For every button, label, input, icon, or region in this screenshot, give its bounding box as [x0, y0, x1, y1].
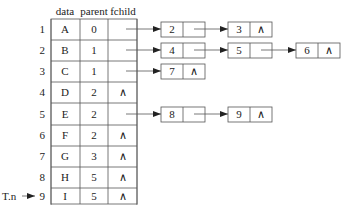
svg-text:H: H — [61, 171, 69, 183]
null-pointer: ∧ — [119, 171, 127, 183]
table-row: 8 H 5 ∧ — [40, 171, 128, 183]
svg-text:5: 5 — [236, 44, 242, 56]
svg-text:8: 8 — [169, 108, 175, 120]
svg-text:1: 1 — [91, 65, 97, 77]
child-list-row-5: 8 9 ∧ — [126, 107, 272, 122]
null-pointer: ∧ — [119, 129, 127, 141]
header-fchild: fchild — [110, 5, 136, 17]
null-pointer: ∧ — [257, 108, 265, 120]
svg-text:C: C — [61, 65, 68, 77]
table-row: 3 C 1 — [40, 65, 97, 77]
svg-text:4: 4 — [169, 44, 175, 56]
header-data: data — [56, 5, 74, 17]
table-row: 5 E 2 — [40, 108, 97, 120]
null-pointer: ∧ — [119, 150, 127, 162]
table-row: 9 I 5 ∧ — [40, 190, 128, 202]
child-list-row-1: 2 3 ∧ — [126, 22, 272, 37]
svg-text:F: F — [62, 129, 68, 141]
tn-pointer: T.n — [2, 190, 35, 202]
null-pointer: ∧ — [190, 65, 198, 77]
tree-child-list-diagram: data parent fchild 1 A 0 2 B 1 3 — [0, 0, 347, 215]
svg-text:1: 1 — [40, 23, 46, 35]
null-pointer: ∧ — [325, 44, 333, 56]
svg-text:3: 3 — [40, 65, 46, 77]
svg-text:2: 2 — [91, 129, 97, 141]
svg-text:0: 0 — [91, 23, 97, 35]
svg-text:3: 3 — [91, 150, 97, 162]
svg-text:3: 3 — [236, 23, 242, 35]
table-rows: 1 A 0 2 B 1 3 C 1 4 D 2 ∧ 5 E 2 6 F 2 — [40, 23, 128, 202]
svg-text:2: 2 — [91, 108, 97, 120]
table-headers: data parent fchild — [56, 5, 136, 17]
svg-text:G: G — [61, 150, 69, 162]
svg-text:9: 9 — [40, 190, 46, 202]
table-row: 6 F 2 ∧ — [40, 129, 128, 141]
table-row: 1 A 0 — [40, 23, 98, 35]
svg-text:8: 8 — [40, 171, 46, 183]
svg-text:B: B — [61, 44, 68, 56]
svg-text:7: 7 — [169, 65, 175, 77]
svg-text:2: 2 — [169, 23, 175, 35]
null-pointer: ∧ — [257, 23, 265, 35]
null-pointer: ∧ — [119, 190, 127, 202]
svg-text:A: A — [61, 23, 69, 35]
tn-label: T.n — [2, 190, 17, 202]
child-list-row-3: 7 ∧ — [126, 64, 205, 79]
table-row: 4 D 2 ∧ — [40, 86, 128, 98]
null-pointer: ∧ — [119, 86, 127, 98]
svg-text:5: 5 — [40, 108, 46, 120]
svg-text:7: 7 — [40, 150, 46, 162]
svg-text:I: I — [63, 190, 67, 202]
svg-text:4: 4 — [40, 86, 46, 98]
table-row: 2 B 1 — [40, 44, 97, 56]
header-parent: parent — [80, 5, 107, 17]
svg-text:6: 6 — [40, 129, 46, 141]
svg-text:5: 5 — [91, 190, 97, 202]
svg-text:5: 5 — [91, 171, 97, 183]
svg-text:2: 2 — [91, 86, 97, 98]
svg-text:D: D — [61, 86, 69, 98]
svg-text:9: 9 — [236, 108, 242, 120]
svg-text:E: E — [62, 108, 69, 120]
table-row: 7 G 3 ∧ — [40, 150, 128, 162]
child-list-row-2: 4 5 6 ∧ — [126, 43, 340, 58]
svg-text:1: 1 — [91, 44, 97, 56]
svg-text:6: 6 — [304, 44, 310, 56]
svg-text:2: 2 — [40, 44, 46, 56]
